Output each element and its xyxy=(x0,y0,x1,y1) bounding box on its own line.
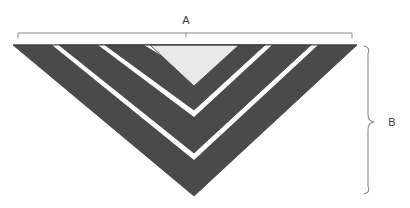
diagram-canvas: A B xyxy=(0,0,410,208)
dimension-b-label: B xyxy=(388,116,395,128)
figure-container: A B xyxy=(0,0,410,208)
dimension-a-label: A xyxy=(182,14,190,26)
